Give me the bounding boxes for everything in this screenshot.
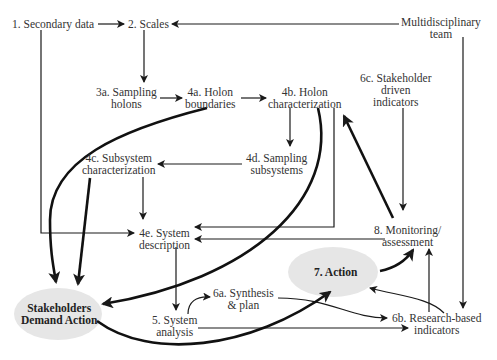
- node-scales: 2. Scales: [128, 18, 169, 30]
- node-holon-boundaries: 4a. Holon boundaries: [185, 86, 235, 110]
- node-stakeholders-demand-action: Stakeholders Demand Action: [21, 302, 97, 326]
- node-sampling-subsystems: 4d. Sampling subsystems: [246, 152, 307, 176]
- node-subsystem-characterization: 4c. Subsystem characterization: [82, 152, 155, 176]
- node-secondary-data: 1. Secondary data: [12, 18, 94, 30]
- edge-analysis-to-synthesis: [188, 297, 210, 314]
- node-synthesis-plan: 6a. Synthesis & plan: [213, 287, 274, 311]
- holon-process-diagram: 1. Secondary data 2. Scales Multidiscipl…: [0, 0, 497, 360]
- edge-boundaries-to-stakeholders: [50, 108, 207, 282]
- node-stakeholder-driven-indicators: 6c. Stakeholder driven indicators: [360, 72, 432, 108]
- node-system-description: 4e. System description: [139, 227, 190, 251]
- node-monitoring-assessment: 8. Monitoring/ assessment: [374, 224, 441, 248]
- node-multidisciplinary-team: Multidisciplinary team: [401, 16, 481, 40]
- node-system-analysis: 5. System analysis: [152, 314, 197, 338]
- node-sampling-holons: 3a. Sampling holons: [96, 86, 157, 110]
- node-holon-characterization: 4b. Holon characterization: [268, 86, 341, 110]
- node-research-based-indicators: 6b. Research-based indicators: [392, 312, 481, 336]
- node-action: 7. Action: [314, 266, 357, 278]
- edge-monitoring-to-characterization: [344, 116, 393, 218]
- edge-research-to-action: [370, 288, 444, 313]
- edge-subsystem-to-stakeholders: [78, 178, 90, 284]
- edge-action-to-monitoring: [380, 250, 413, 271]
